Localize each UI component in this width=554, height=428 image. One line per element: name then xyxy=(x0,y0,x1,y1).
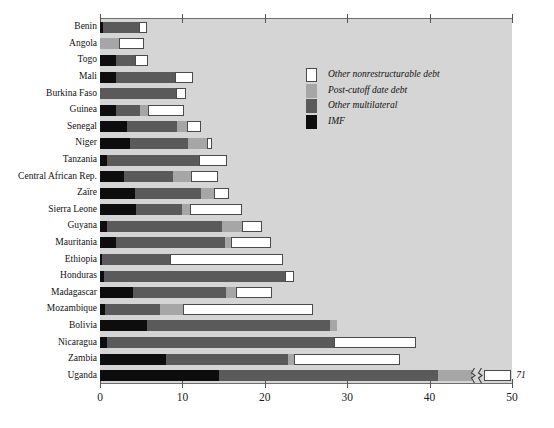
segment-other-multilateral xyxy=(116,237,226,248)
segment-imf xyxy=(100,55,116,66)
segment-post-cutoff-date-debt xyxy=(188,138,207,149)
segment-post-cutoff-date-debt xyxy=(100,38,119,49)
legend: Other nonrestructurable debtPost-cutoff … xyxy=(306,67,486,129)
legend-label: Other multilateral xyxy=(328,99,397,112)
segment-post-cutoff-date-debt xyxy=(160,304,183,315)
segment-other-multilateral xyxy=(147,320,330,331)
bar-row xyxy=(0,320,554,331)
segment-other-multilateral xyxy=(100,88,176,99)
segment-other-nonrestructurable-debt xyxy=(214,188,229,199)
segment-imf xyxy=(100,171,124,182)
segment-post-cutoff-date-debt xyxy=(288,354,295,365)
bar-value-label: 71 xyxy=(516,370,526,381)
segment-other-multilateral xyxy=(219,370,438,381)
segment-other-multilateral xyxy=(130,138,189,149)
segment-other-multilateral xyxy=(104,271,285,282)
segment-other-multilateral xyxy=(135,188,201,199)
segment-other-multilateral xyxy=(116,55,135,66)
segment-other-nonrestructurable-debt xyxy=(183,304,312,315)
light-gray-swatch xyxy=(306,84,317,98)
axis-top-line xyxy=(100,18,512,19)
segment-other-nonrestructurable-debt xyxy=(191,171,218,182)
segment-other-multilateral xyxy=(103,22,138,33)
segment-imf xyxy=(100,204,136,215)
bar-row xyxy=(0,304,554,315)
segment-other-nonrestructurable-debt xyxy=(175,72,193,83)
axis-bottom-line xyxy=(100,383,512,384)
segment-post-cutoff-date-debt xyxy=(201,188,214,199)
bar-row xyxy=(0,237,554,248)
segment-imf xyxy=(100,155,107,166)
segment-other-nonrestructurable-debt xyxy=(148,105,184,116)
segment-other-nonrestructurable-debt xyxy=(119,38,144,49)
segment-other-multilateral xyxy=(102,254,170,265)
bar-row xyxy=(0,204,554,215)
segment-other-nonrestructurable-debt xyxy=(176,88,186,99)
segment-other-nonrestructurable-debt xyxy=(207,138,212,149)
segment-other-multilateral xyxy=(116,105,140,116)
legend-item: Other nonrestructurable debt xyxy=(306,67,486,83)
legend-label: Other nonrestructurable debt xyxy=(328,68,440,81)
axis-break-icon xyxy=(470,368,483,383)
bar-row xyxy=(0,337,554,348)
segment-imf xyxy=(100,237,116,248)
bar-row: 71 xyxy=(0,370,554,381)
segment-other-multilateral xyxy=(136,204,182,215)
bar-row xyxy=(0,254,554,265)
segment-other-nonrestructurable-debt xyxy=(484,370,511,381)
bar-row xyxy=(0,271,554,282)
segment-other-nonrestructurable-debt xyxy=(236,287,272,298)
bar-row xyxy=(0,38,554,49)
segment-other-nonrestructurable-debt xyxy=(285,271,293,282)
segment-post-cutoff-date-debt xyxy=(222,221,242,232)
segment-imf xyxy=(100,354,166,365)
segment-other-nonrestructurable-debt xyxy=(242,221,263,232)
bar-row xyxy=(0,138,554,149)
axis-tick-label: 40 xyxy=(410,390,450,404)
segment-other-nonrestructurable-debt xyxy=(231,237,271,248)
segment-imf xyxy=(100,138,130,149)
segment-imf xyxy=(100,287,133,298)
dark-gray-swatch xyxy=(306,99,317,113)
segment-other-nonrestructurable-debt xyxy=(135,55,147,66)
segment-other-multilateral xyxy=(124,171,173,182)
segment-other-nonrestructurable-debt xyxy=(187,121,202,132)
segment-other-nonrestructurable-debt xyxy=(139,22,147,33)
segment-post-cutoff-date-debt xyxy=(140,105,148,116)
segment-imf xyxy=(100,188,135,199)
segment-other-nonrestructurable-debt xyxy=(294,354,399,365)
bar-row xyxy=(0,221,554,232)
segment-imf xyxy=(100,72,116,83)
segment-post-cutoff-date-debt xyxy=(173,171,191,182)
segment-other-nonrestructurable-debt xyxy=(190,204,242,215)
black-swatch xyxy=(306,115,317,129)
bar-row xyxy=(0,188,554,199)
segment-post-cutoff-date-debt xyxy=(226,287,236,298)
segment-other-nonrestructurable-debt xyxy=(170,254,283,265)
segment-other-multilateral xyxy=(107,221,222,232)
legend-label: Post-cutoff date debt xyxy=(328,84,407,97)
segment-other-multilateral xyxy=(127,121,176,132)
segment-post-cutoff-date-debt xyxy=(330,320,337,331)
segment-other-multilateral xyxy=(107,155,199,166)
legend-item: Post-cutoff date debt xyxy=(306,83,486,99)
bar-row xyxy=(0,287,554,298)
segment-post-cutoff-date-debt xyxy=(177,121,187,132)
segment-other-multilateral xyxy=(133,287,226,298)
segment-imf xyxy=(100,121,127,132)
segment-other-multilateral xyxy=(107,337,334,348)
axis-tick-label: 0 xyxy=(80,390,120,404)
stacked-bar-chart: 01020304050 BeninAngolaTogoMaliBurkina F… xyxy=(0,0,554,428)
segment-post-cutoff-date-debt xyxy=(182,204,189,215)
segment-imf xyxy=(100,337,107,348)
segment-imf xyxy=(100,320,147,331)
segment-other-multilateral xyxy=(166,354,288,365)
axis-tick-label: 50 xyxy=(492,390,532,404)
segment-other-nonrestructurable-debt xyxy=(199,155,227,166)
segment-other-nonrestructurable-debt xyxy=(334,337,416,348)
segment-imf xyxy=(100,370,219,381)
segment-post-cutoff-date-debt xyxy=(438,370,473,381)
segment-imf xyxy=(100,221,107,232)
legend-item: IMF xyxy=(306,114,486,130)
axis-tick-label: 20 xyxy=(245,390,285,404)
